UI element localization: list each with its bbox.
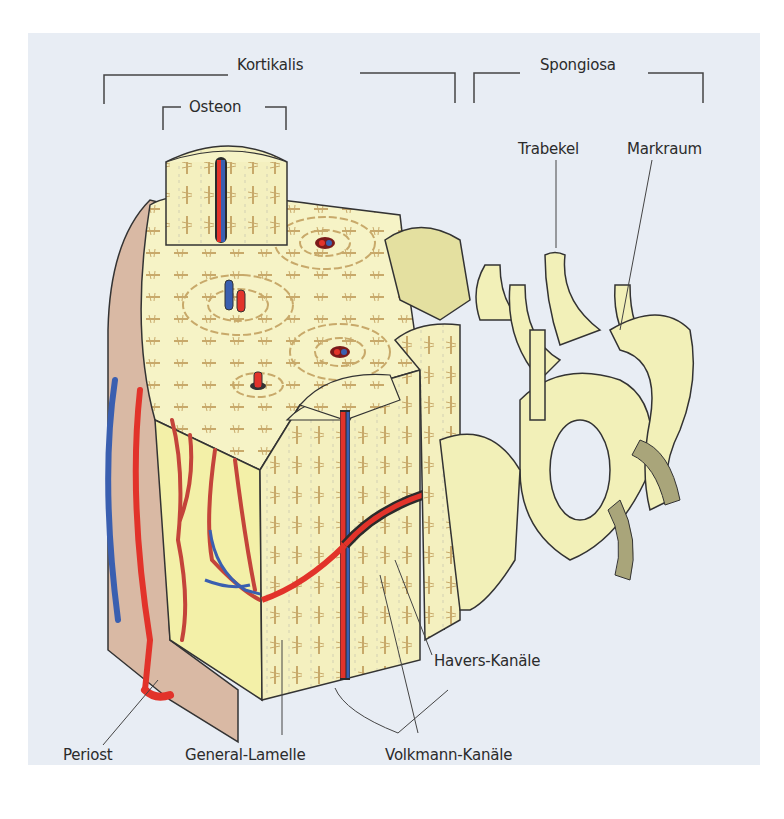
label-volkmann-kanaele: Volkmann-Kanäle <box>385 746 512 764</box>
bone-structure-illustration <box>0 0 784 819</box>
spongiosa-bracket <box>474 73 703 103</box>
label-osteon: Osteon <box>189 98 241 116</box>
label-trabekel: Trabekel <box>518 140 579 158</box>
label-havers-kanaele: Havers-Kanäle <box>434 652 540 670</box>
label-periost: Periost <box>63 746 113 764</box>
label-spongiosa: Spongiosa <box>540 56 616 74</box>
kortikalis-bracket <box>104 73 455 104</box>
label-kortikalis: Kortikalis <box>237 56 303 74</box>
label-general-lamelle: General-Lamelle <box>185 746 305 764</box>
label-markraum: Markraum <box>627 140 702 158</box>
